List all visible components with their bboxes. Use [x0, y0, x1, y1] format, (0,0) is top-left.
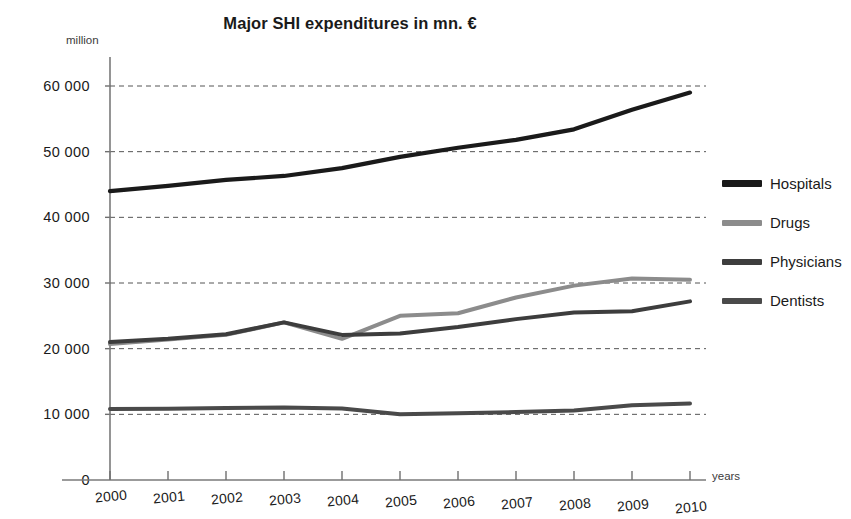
x-tick-label: 2006: [442, 493, 475, 512]
x-axis-ticks: [110, 471, 690, 480]
axis-lines: [62, 57, 706, 480]
legend-swatch-icon: [722, 180, 762, 187]
legend-item-hospitals[interactable]: Hospitals: [722, 168, 851, 199]
legend-label: Drugs: [770, 214, 810, 231]
data-series-lines: [110, 93, 690, 415]
gridlines: [105, 86, 706, 414]
x-tick-label: 2010: [674, 497, 707, 516]
legend-label: Hospitals: [770, 175, 832, 192]
x-tick-label: 2002: [210, 489, 243, 508]
legend-label: Physicians: [770, 253, 842, 270]
x-tick-label: 2004: [326, 491, 359, 510]
series-line-physicians: [110, 301, 690, 342]
x-tick-label: 2000: [94, 487, 127, 506]
x-tick-label: 2001: [152, 488, 185, 507]
legend-item-physicians[interactable]: Physicians: [722, 246, 851, 277]
legend-item-dentists[interactable]: Dentists: [722, 285, 851, 316]
legend-swatch-icon: [722, 220, 762, 226]
legend-swatch-icon: [722, 298, 762, 304]
legend-item-drugs[interactable]: Drugs: [722, 207, 851, 238]
x-tick-label: 2005: [384, 492, 417, 511]
series-line-hospitals: [110, 93, 690, 192]
legend-label: Dentists: [770, 292, 824, 309]
x-tick-label: 2003: [268, 490, 301, 509]
x-tick-label: 2008: [558, 495, 591, 514]
line-chart: Major SHI expenditures in mn. € million …: [0, 0, 851, 519]
legend-swatch-icon: [722, 259, 762, 265]
series-line-dentists: [110, 404, 690, 415]
x-tick-label: 2007: [500, 494, 533, 513]
chart-legend: HospitalsDrugsPhysiciansDentists: [722, 168, 851, 324]
